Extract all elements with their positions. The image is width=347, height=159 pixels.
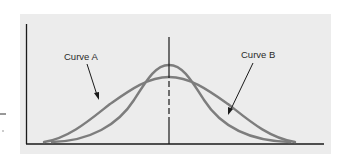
curve-b-arrow — [228, 63, 253, 115]
curve-b-label: Curve B — [241, 49, 275, 60]
curve-a-arrow — [87, 64, 99, 100]
curve-a-label: Curve A — [64, 51, 98, 62]
bell-curves-chart: Curve A Curve B — [0, 0, 347, 159]
